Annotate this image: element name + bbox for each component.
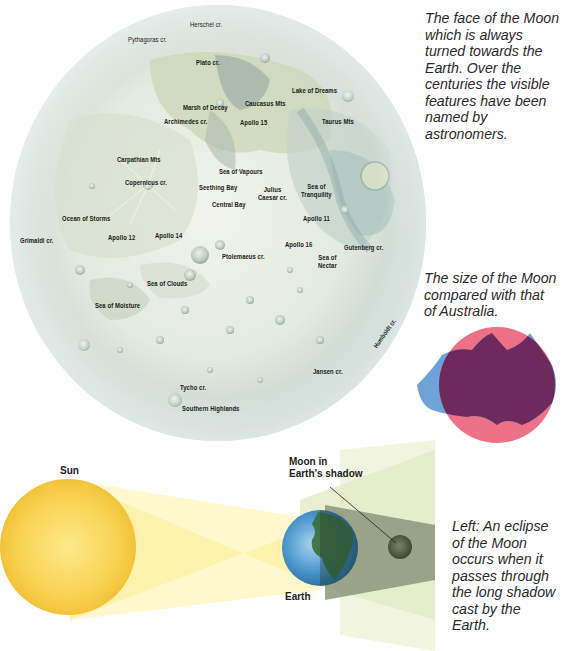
label-lake-of-dreams: Lake of Dreams	[292, 86, 337, 95]
label-sea-of-tranquility: Sea of Tranquility	[301, 183, 332, 199]
label-apollo-15: Apollo 15	[240, 118, 267, 127]
label-apollo-11: Apollo 11	[303, 214, 330, 223]
earth-icon	[282, 510, 358, 586]
label-seething-bay: Seething Bay	[199, 183, 237, 192]
label-pythagoras: Pythagoras cr.	[128, 35, 167, 44]
label-apollo-14: Apollo 14	[155, 231, 182, 240]
label-ocean-of-storms: Ocean of Storms	[62, 214, 110, 223]
label-carpathian-mts: Carpathian Mts	[117, 155, 161, 164]
label-copernicus: Copernicus cr.	[125, 178, 167, 187]
caption-eclipse: Left: An eclipse of the Moon occurs when…	[452, 518, 566, 634]
label-herschel: Herschel cr.	[190, 20, 222, 29]
label-gutenberg: Gutenberg cr.	[344, 243, 383, 252]
label-jansen: Jansen cr.	[313, 367, 343, 376]
label-sea-of-vapours: Sea of Vapours	[219, 167, 263, 176]
label-caucasus-mts: Caucasus Mts	[245, 99, 286, 108]
label-sun: Sun	[60, 465, 79, 477]
label-archimedes: Archimedes cr.	[164, 117, 207, 126]
label-sea-of-moisture: Sea of Moisture	[95, 301, 140, 310]
label-ptolemaeus: Ptolemaeus cr.	[222, 252, 265, 261]
label-southern-highlands: Southern Highlands	[182, 404, 239, 413]
label-sea-of-nectar: Sea of Nectar	[318, 254, 337, 270]
label-grimaldi: Grimaldi cr.	[20, 236, 53, 245]
australia-overlay-graphic	[412, 325, 566, 445]
caption-size-compare: The size of the Moon compared with that …	[424, 270, 566, 320]
label-sea-of-clouds: Sea of Clouds	[147, 279, 187, 288]
shadowed-moon-icon	[388, 535, 412, 559]
label-central-bay: Central Bay	[212, 200, 246, 209]
label-marsh-of-decay: Marsh of Decay	[183, 103, 228, 112]
moon-australia-comparison	[412, 325, 566, 445]
label-moon-in-shadow: Moon in Earth’s shadow	[289, 456, 363, 480]
label-taurus-mts: Taurus Mts	[322, 117, 354, 126]
label-apollo-16: Apollo 16	[285, 240, 312, 249]
eclipse-diagram: Sun Moon in Earth’s shadow Earth	[0, 440, 450, 651]
label-julius-caesar: Julius Caesar cr.	[258, 186, 287, 202]
label-plato: Plato cr.	[196, 58, 220, 67]
sun-icon	[0, 479, 136, 615]
label-apollo-12: Apollo 12	[108, 233, 135, 242]
label-earth: Earth	[285, 591, 311, 603]
label-tycho: Tycho cr.	[180, 383, 206, 392]
caption-moon-face: The face of the Moon which is always tur…	[425, 10, 566, 142]
